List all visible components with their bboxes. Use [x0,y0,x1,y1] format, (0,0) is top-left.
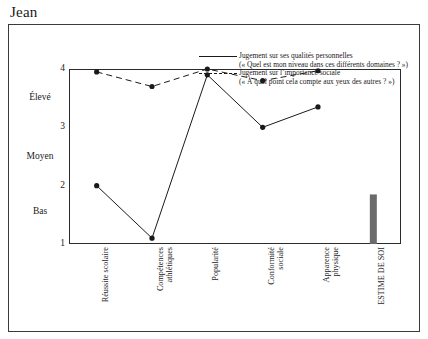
chart-series-svg [69,69,401,244]
x-axis-label-2: Compétences athlétiques [156,247,175,339]
data-point-s1-1 [94,183,99,188]
x-axis-label-4: Conformité sociale [267,247,286,339]
data-point-s1-3 [205,72,210,77]
y-axis-label-bas: Bas [15,206,65,216]
data-point-s1-4 [260,125,265,130]
x-axis-label-1: Réussite scolaire [101,247,110,339]
data-point-s2-5 [315,68,320,73]
legend-line-solid-icon [197,52,239,61]
x-axis-label-6: ESTIME DE SOI [377,247,386,339]
y-axis-category-labels: BasMoyenÉlevé [15,69,65,244]
data-point-s2-4 [260,78,265,83]
data-point-s2-2 [149,84,154,89]
data-point-s1-5 [315,104,320,109]
data-point-s2-1 [94,69,99,74]
y-axis-label-lev: Élevé [15,92,65,102]
series-line-1 [97,75,318,238]
chart-frame: Jugement sur ses qualités personnelles (… [8,24,420,332]
series-line-2 [97,69,318,87]
data-point-s2-3 [205,66,210,71]
x-axis-label-3: Popularité [211,247,220,339]
page-title: Jean [10,4,37,21]
bar-estime-de-soi [370,194,377,244]
x-axis-labels: Réussite scolaireCompétences athlétiques… [69,247,401,339]
plot-area [69,69,401,244]
x-axis-label-5: Apparence physique [322,247,341,339]
y-axis-label-moyen: Moyen [15,151,65,161]
data-point-s1-2 [149,236,154,241]
